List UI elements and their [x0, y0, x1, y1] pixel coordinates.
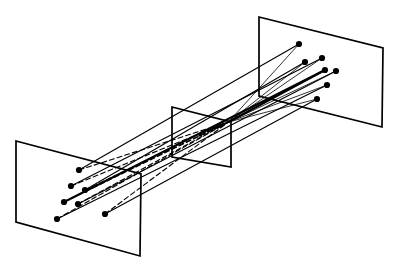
- ray-right-3: [229, 62, 306, 122]
- through-ray-5: [78, 71, 336, 204]
- right-plane-point-5: [333, 68, 339, 74]
- left-plane-point-5: [75, 201, 81, 207]
- left-plane-point-1: [76, 167, 82, 173]
- right-plane-point-1: [296, 41, 302, 47]
- mid-plane-point-4: [209, 128, 212, 131]
- through-ray-2: [71, 58, 322, 186]
- left-plane-point-2: [68, 183, 74, 189]
- mid-plane-point-3: [206, 129, 209, 132]
- mid-plane-point-7: [218, 124, 221, 127]
- mid-plane-point-6: [215, 125, 218, 128]
- right-plane-point-6: [324, 82, 330, 88]
- right-plane-point-4: [322, 67, 328, 73]
- rays-group: [57, 44, 336, 219]
- ray-left-6: [57, 122, 229, 219]
- left-plane: [16, 141, 141, 256]
- left-plane-point-6: [54, 216, 60, 222]
- left-plane-point-4: [61, 199, 67, 205]
- right-plane-point-2: [319, 55, 325, 61]
- projection-diagram: [0, 0, 394, 268]
- through-ray-3: [85, 62, 305, 190]
- left-plane-point-3: [82, 187, 88, 193]
- mid-plane-point-1: [198, 133, 201, 136]
- mid-plane-point-8: [221, 122, 224, 125]
- mid-plane-point-5: [212, 126, 215, 129]
- ray-right-7: [229, 99, 318, 122]
- mid-plane-point-2: [202, 131, 205, 134]
- ray-right-1: [229, 44, 300, 122]
- right-plane-point-7: [314, 96, 320, 102]
- right-plane-point-3: [302, 59, 308, 65]
- figure-canvas: [0, 0, 394, 268]
- left-plane-point-7: [102, 211, 108, 217]
- ray-right-6: [229, 85, 328, 122]
- ray-right-2: [229, 58, 323, 122]
